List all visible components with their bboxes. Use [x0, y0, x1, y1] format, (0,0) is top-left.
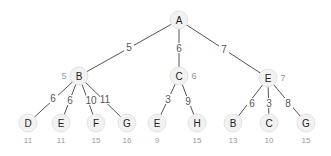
tree-diagram: 56766101139638 AB5C6E7D11E11F15G16E9H15B… — [0, 0, 331, 156]
node-cost-label: 6 — [191, 71, 196, 81]
node-label: B — [76, 71, 83, 82]
node-label: E — [154, 118, 161, 129]
tree-node-b: B13 — [224, 114, 242, 145]
node-label: A — [176, 15, 183, 26]
node-label: G — [123, 118, 131, 129]
node-cost-label: 11 — [57, 136, 66, 145]
node-label: D — [24, 118, 31, 129]
edge-weight-label: 7 — [221, 44, 227, 55]
nodes-layer: AB5C6E7D11E11F15G16E9H15B13C10G15 — [19, 11, 315, 145]
node-label: H — [193, 118, 200, 129]
node-cost-label: 15 — [302, 136, 311, 145]
tree-node-h: H15 — [188, 114, 206, 145]
tree-node-d: D11 — [19, 114, 37, 145]
tree-node-e: E11 — [52, 114, 70, 145]
node-cost-label: 15 — [92, 136, 101, 145]
edge-weight-label: 9 — [185, 96, 191, 107]
edge-weight-label: 3 — [266, 98, 272, 109]
tree-node-e: E7 — [259, 69, 286, 87]
node-cost-label: 13 — [229, 136, 238, 145]
tree-node-b: B5 — [61, 67, 88, 85]
node-cost-label: 10 — [265, 136, 274, 145]
node-label: C — [175, 71, 182, 82]
node-label: G — [302, 118, 310, 129]
node-cost-label: 5 — [61, 71, 66, 81]
node-cost-label: 15 — [193, 136, 202, 145]
edge-weight-label: 3 — [165, 94, 171, 105]
edge-weight-label: 6 — [249, 98, 255, 109]
node-cost-label: 9 — [155, 136, 160, 145]
edge-weight-label: 8 — [285, 98, 291, 109]
edge-weight-label: 11 — [100, 94, 111, 105]
tree-node-e: E9 — [148, 114, 166, 145]
node-label: E — [58, 118, 65, 129]
tree-node-c: C6 — [170, 67, 197, 85]
node-label: B — [230, 118, 237, 129]
edge-weight-label: 10 — [85, 95, 97, 106]
tree-node-f: F15 — [87, 114, 105, 145]
tree-node-g: G16 — [118, 114, 136, 145]
node-cost-label: 11 — [24, 136, 33, 145]
node-cost-label: 16 — [123, 136, 132, 145]
tree-node-a: A — [170, 11, 188, 29]
edge-weight-label: 5 — [126, 42, 132, 53]
node-label: F — [93, 118, 99, 129]
edge-weight-label: 6 — [67, 95, 73, 106]
tree-node-c: C10 — [260, 114, 278, 145]
node-label: E — [265, 73, 272, 84]
tree-node-g: G15 — [297, 114, 315, 145]
node-label: C — [265, 118, 272, 129]
node-cost-label: 7 — [280, 73, 285, 83]
edge-weight-label: 6 — [176, 43, 182, 54]
edge-weight-label: 6 — [50, 93, 56, 104]
